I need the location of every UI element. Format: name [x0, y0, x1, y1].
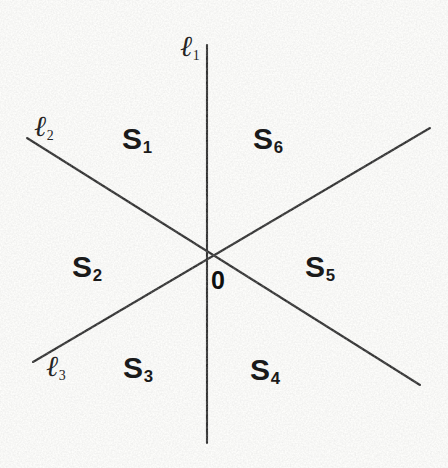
line-label-l3-glyph: ℓ: [46, 350, 58, 382]
figure-background: [0, 0, 448, 468]
sector-label-s4: S4: [250, 355, 280, 385]
sector-label-s2: S2: [72, 252, 102, 282]
sector-s6-glyph: S: [253, 122, 274, 155]
sector-label-s6: S6: [253, 124, 283, 154]
sector-label-s5: S5: [305, 252, 335, 282]
line-label-l1-subscript: 1: [193, 48, 200, 63]
sector-label-s1: S1: [122, 124, 152, 154]
sector-s4-glyph: S: [250, 353, 271, 386]
line-label-l2: ℓ2: [34, 112, 53, 141]
sector-s2-subscript: 2: [93, 266, 103, 285]
sector-s1-glyph: S: [122, 122, 143, 155]
sector-label-s3: S3: [123, 353, 153, 383]
geometry-figure: ℓ1 ℓ2 ℓ3 S1 S6 S2 S5 S3 S4 0: [0, 0, 448, 468]
line-label-l3: ℓ3: [46, 352, 65, 381]
sector-s3-subscript: 3: [144, 367, 154, 386]
line-label-l1-glyph: ℓ: [180, 30, 192, 62]
sector-s2-glyph: S: [72, 250, 93, 283]
figure-canvas: [0, 0, 448, 468]
origin-label: 0: [211, 268, 225, 293]
sector-s4-subscript: 4: [271, 369, 281, 388]
line-label-l3-subscript: 3: [59, 368, 66, 383]
sector-s5-subscript: 5: [326, 266, 336, 285]
sector-s3-glyph: S: [123, 351, 144, 384]
sector-s5-glyph: S: [305, 250, 326, 283]
line-label-l2-subscript: 2: [47, 128, 54, 143]
sector-s6-subscript: 6: [274, 138, 284, 157]
line-label-l1: ℓ1: [180, 32, 199, 61]
sector-s1-subscript: 1: [143, 138, 153, 157]
line-label-l2-glyph: ℓ: [34, 110, 46, 142]
